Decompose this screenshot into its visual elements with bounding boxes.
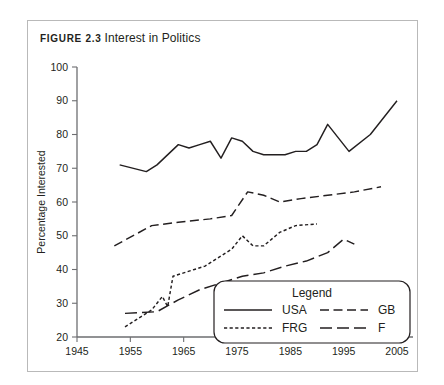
y-tick-label: 40 <box>56 263 68 275</box>
legend-title: Legend <box>292 286 332 300</box>
chart-legend: Legend USAGBFRGF <box>214 281 410 343</box>
x-tick-label: 1985 <box>279 345 303 357</box>
x-tick-label: 1995 <box>332 345 356 357</box>
legend-label-usa: USA <box>282 303 307 317</box>
y-tick-label: 60 <box>56 196 68 208</box>
figure-frame: FIGURE 2.3Interest in Politics 203040506… <box>27 20 418 372</box>
y-axis-group: 2030405060708090100 Percentage Intereste… <box>35 61 77 343</box>
y-tick-label: 50 <box>56 229 68 241</box>
y-tick-labels: 2030405060708090100 <box>50 61 68 343</box>
x-tick-label: 1965 <box>172 345 196 357</box>
legend-label-frg: FRG <box>282 321 307 335</box>
x-tick-label: 1975 <box>225 345 249 357</box>
y-tick-label: 30 <box>56 297 68 309</box>
y-tick-label: 70 <box>56 162 68 174</box>
x-tick-label: 1955 <box>119 345 143 357</box>
x-tick-label: 2005 <box>385 345 409 357</box>
legend-label-f: F <box>378 321 385 335</box>
x-tick-label: 1945 <box>65 345 89 357</box>
y-tick-label: 20 <box>56 331 68 343</box>
series-line-usa <box>120 101 397 172</box>
chart-plot: 2030405060708090100 Percentage Intereste… <box>28 21 419 373</box>
y-tick-label: 100 <box>50 61 68 73</box>
legend-label-gb: GB <box>378 303 395 317</box>
y-tick-label: 90 <box>56 94 68 106</box>
x-tick-labels: 1945195519651975198519952005 <box>65 345 409 357</box>
series-line-gb <box>114 187 381 246</box>
y-axis-ticks <box>72 67 77 337</box>
y-tick-label: 80 <box>56 128 68 140</box>
y-axis-title: Percentage Interested <box>35 150 47 253</box>
